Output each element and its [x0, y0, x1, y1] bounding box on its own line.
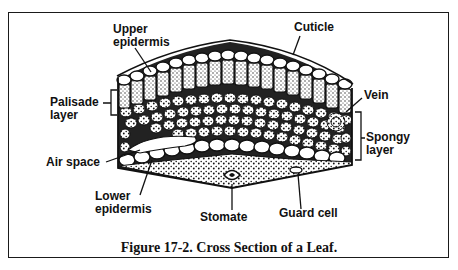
label-air-space: Air space [46, 156, 100, 169]
label-cuticle: Cuticle [294, 21, 334, 34]
label-stomate: Stomate [200, 211, 247, 224]
guard-cell-shape [290, 167, 302, 173]
label-lower-epidermis: Lower epidermis [95, 190, 152, 216]
label-guard-cell: Guard cell [279, 207, 338, 220]
label-vein: Vein [364, 89, 389, 102]
label-upper-epidermis: Upper epidermis [113, 23, 170, 49]
stomate-shape [224, 171, 240, 180]
figure-caption: Figure 17-2. Cross Section of a Leaf. [0, 240, 458, 256]
label-spongy-layer: Spongy layer [366, 131, 410, 157]
vein-shape [327, 113, 345, 131]
label-palisade-layer: Palisade layer [50, 96, 99, 122]
palisade-bracket [103, 90, 117, 115]
spongy-bracket [355, 112, 365, 160]
